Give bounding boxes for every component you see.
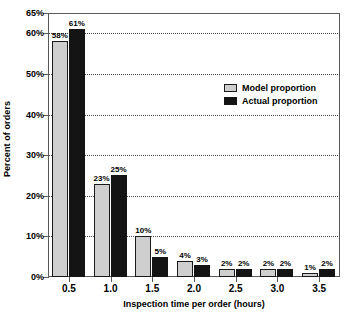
y-tick-label: 0% [14, 272, 44, 282]
x-tick-label: 1.5 [132, 283, 172, 294]
x-tick-mark [152, 277, 153, 282]
bar-model[interactable] [52, 41, 68, 277]
x-tick-mark [111, 277, 112, 282]
y-tick-label: 40% [14, 110, 44, 120]
bar-model[interactable] [219, 269, 235, 277]
bar-group: 10%5% [135, 13, 169, 277]
bar-chart: Percent of orders 0%10%20%30%40%50%60%65… [0, 0, 350, 317]
x-tick-mark [69, 277, 70, 282]
y-axis-title-label: Percent of orders [2, 100, 12, 176]
bar-group: 2%2% [219, 13, 253, 277]
legend-swatch-actual-icon [224, 97, 237, 105]
y-tick-label: 30% [14, 150, 44, 160]
x-tick-label: 3.0 [257, 283, 297, 294]
bar-model[interactable] [135, 236, 151, 277]
x-tick-mark [194, 277, 195, 282]
bar-group: 1%2% [302, 13, 336, 277]
bar-actual[interactable] [194, 265, 210, 277]
bar-actual[interactable] [111, 175, 127, 277]
bar-actual[interactable] [236, 269, 252, 277]
legend-item-model: Model proportion [224, 83, 318, 93]
y-tick-label: 65% [14, 8, 44, 18]
bar-model[interactable] [94, 184, 110, 277]
x-tick-mark [277, 277, 278, 282]
bar-value-label-actual: 61% [60, 19, 94, 28]
bar-group: 4%3% [177, 13, 211, 277]
legend-item-actual: Actual proportion [224, 96, 318, 106]
bar-model[interactable] [302, 273, 318, 277]
bar-value-label-actual: 2% [310, 259, 344, 268]
y-axis-title: Percent of orders [0, 0, 14, 277]
x-tick-mark [236, 277, 237, 282]
x-tick-label: 2.0 [174, 283, 214, 294]
x-tick-label: 2.5 [216, 283, 256, 294]
bar-group: 2%2% [260, 13, 294, 277]
x-tick-mark [319, 277, 320, 282]
legend-label-actual: Actual proportion [242, 96, 318, 106]
bar-actual[interactable] [319, 269, 335, 277]
bar-value-label-actual: 25% [102, 165, 136, 174]
y-tick-label: 20% [14, 191, 44, 201]
bar-value-label-model: 10% [126, 226, 160, 235]
bar-actual[interactable] [277, 269, 293, 277]
bar-group: 58%61% [52, 13, 86, 277]
legend-swatch-model-icon [224, 84, 237, 92]
x-tick-label: 0.5 [49, 283, 89, 294]
chart-legend: Model proportion Actual proportion [224, 83, 318, 106]
legend-label-model: Model proportion [242, 83, 316, 93]
y-tick-label: 50% [14, 69, 44, 79]
bar-actual[interactable] [152, 257, 168, 277]
bar-model[interactable] [260, 269, 276, 277]
bar-group: 23%25% [94, 13, 128, 277]
y-tick-label: 10% [14, 231, 44, 241]
bar-actual[interactable] [69, 29, 85, 277]
y-tick-label: 60% [14, 28, 44, 38]
x-axis-title: Inspection time per order (hours) [48, 299, 340, 309]
x-tick-label: 3.5 [299, 283, 339, 294]
x-tick-label: 1.0 [91, 283, 131, 294]
bars-layer: 58%61%23%25%10%5%4%3%2%2%2%2%1%2% [48, 13, 340, 277]
